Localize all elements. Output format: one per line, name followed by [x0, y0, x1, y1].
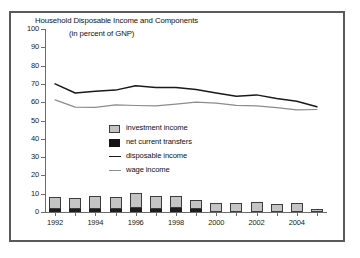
legend-marker-icon	[109, 156, 121, 157]
legend-marker-icon	[109, 170, 121, 171]
x-tick-label: 1994	[87, 219, 103, 227]
x-tick	[216, 212, 217, 216]
legend-marker-icon	[109, 139, 120, 147]
y-tick-label: 90	[31, 44, 39, 52]
y-tick-label: 70	[31, 80, 39, 88]
x-tick	[136, 212, 137, 216]
x-tick	[317, 212, 318, 216]
legend-item-label: investment income	[126, 124, 188, 132]
y-tick-label: 80	[31, 62, 39, 70]
y-tick-label: 100	[27, 25, 39, 33]
plot-area: 0102030405060708090100 19921994199619982…	[45, 29, 327, 212]
x-tick	[55, 212, 56, 216]
line-series-group	[45, 29, 327, 212]
x-tick	[277, 212, 278, 216]
x-tick	[236, 212, 237, 216]
y-tick-label: 50	[31, 117, 39, 125]
legend-item-label: disposable income	[126, 152, 187, 160]
line-wage-income	[55, 100, 317, 110]
legend-item-label: wage income	[126, 166, 170, 174]
chart-title: Household Disposable Income and Componen…	[35, 17, 198, 25]
x-tick-label: 2000	[208, 219, 224, 227]
y-tick-label: 20	[31, 172, 39, 180]
x-tick	[95, 212, 96, 216]
x-tick	[196, 212, 197, 216]
x-tick-label: 1992	[47, 219, 63, 227]
x-tick-label: 2004	[289, 219, 305, 227]
y-tick-label: 40	[31, 135, 39, 143]
x-tick	[116, 212, 117, 216]
legend-marker-icon	[109, 125, 120, 133]
y-tick-label: 30	[31, 153, 39, 161]
y-tick-label: 60	[31, 98, 39, 106]
x-tick	[75, 212, 76, 216]
x-axis	[45, 212, 327, 213]
x-tick-label: 2002	[249, 219, 265, 227]
x-tick-label: 1996	[128, 219, 144, 227]
x-tick	[176, 212, 177, 216]
x-tick	[257, 212, 258, 216]
x-tick	[297, 212, 298, 216]
y-tick	[41, 212, 45, 213]
legend-item-label: net current transfers	[126, 138, 192, 146]
y-tick-label: 0	[35, 208, 39, 216]
x-tick-label: 1998	[168, 219, 184, 227]
y-tick-label: 10	[31, 190, 39, 198]
chart-figure: Household Disposable Income and Componen…	[9, 11, 345, 242]
x-tick	[156, 212, 157, 216]
